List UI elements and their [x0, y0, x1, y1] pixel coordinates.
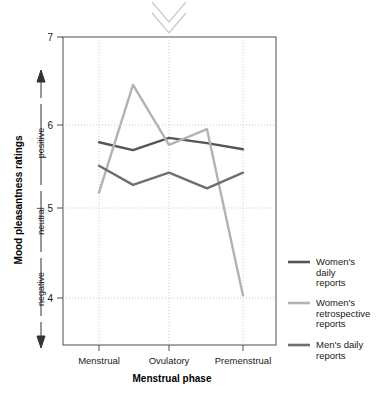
series-line: [99, 85, 243, 296]
y-tick-label: 6: [47, 120, 53, 131]
plot-frame: [63, 37, 276, 345]
y-gridlines: [63, 125, 276, 298]
x-tick-label-menstrual: Menstrual: [78, 355, 120, 366]
legend-label-womens-daily: Women's daily reports: [316, 257, 355, 289]
legend-label-mens-daily: Men's daily reports: [316, 340, 363, 361]
x-tick-label-ovulatory: Ovulatory: [149, 355, 190, 366]
x-tick-label-premenstrual: Premenstrual: [215, 355, 272, 366]
y-axis-title: Mood pleasantness ratings: [13, 135, 24, 264]
y-anchor-neutral: neutral: [36, 207, 46, 235]
double-chevron-down-icon: [152, 2, 186, 33]
legend-label-womens-retrospective: Women's retrospective reports: [316, 298, 370, 330]
y-axis-ticks: [57, 37, 63, 298]
x-axis-title: Menstrual phase: [133, 373, 212, 384]
chart-figure: 7 6 5 4 Menstrual Ovulatory Premenstrual…: [0, 0, 384, 414]
y-anchor-positive: positive: [36, 128, 46, 159]
y-tick-label: 4: [47, 293, 53, 304]
data-series-layer: [99, 85, 243, 296]
legend-swatches: [288, 262, 310, 345]
series-line: [99, 166, 243, 189]
x-axis-ticks: [99, 345, 243, 351]
y-tick-label: 5: [47, 203, 53, 214]
y-tick-label: 7: [47, 32, 53, 43]
y-anchor-negative: negative: [36, 272, 46, 306]
